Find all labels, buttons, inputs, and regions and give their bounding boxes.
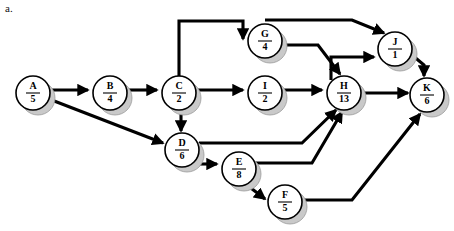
node-f[interactable]: F5	[268, 185, 307, 224]
node-activity-label: K	[423, 82, 431, 93]
node-k[interactable]: K6	[410, 78, 449, 117]
node-duration-label: 1	[393, 49, 398, 60]
node-g[interactable]: G4	[248, 24, 287, 63]
node-duration-label: 4	[108, 93, 113, 104]
node-duration-label: 2	[263, 93, 268, 104]
network-diagram: A5B4C2D6E8F5G4I2H13J1K6	[0, 0, 454, 231]
node-activity-label: I	[263, 80, 267, 91]
node-activity-label: C	[175, 80, 182, 91]
node-activity-label: A	[29, 80, 37, 91]
node-j[interactable]: J1	[378, 32, 417, 71]
node-duration-label: 8	[237, 169, 242, 180]
node-activity-label: D	[178, 137, 185, 148]
edge-c-to-j	[265, 20, 384, 33]
node-duration-label: 13	[339, 93, 349, 104]
node-activity-label: G	[261, 28, 269, 39]
node-b[interactable]: B4	[93, 76, 132, 115]
node-duration-label: 6	[425, 95, 430, 106]
node-activity-label: F	[282, 189, 288, 200]
node-h[interactable]: H13	[327, 76, 366, 115]
node-duration-label: 5	[283, 202, 288, 213]
node-duration-label: 4	[263, 41, 268, 52]
node-i[interactable]: I2	[248, 76, 287, 115]
node-duration-label: 6	[180, 150, 185, 161]
node-activity-label: B	[107, 80, 114, 91]
node-c[interactable]: C2	[162, 76, 201, 115]
node-activity-label: J	[393, 36, 398, 47]
edge-e-to-h	[256, 112, 342, 163]
node-a[interactable]: A5	[16, 76, 55, 115]
node-duration-label: 2	[177, 93, 182, 104]
nodes-layer: A5B4C2D6E8F5G4I2H13J1K6	[16, 24, 449, 224]
edge-c-to-g	[179, 21, 243, 77]
node-d[interactable]: D6	[165, 133, 204, 172]
diagram-page: a. A5B4C2D6E8F5G4I2H13J1K6	[0, 0, 454, 231]
node-activity-label: E	[236, 156, 243, 167]
node-duration-label: 5	[31, 93, 36, 104]
node-activity-label: H	[340, 80, 348, 91]
node-e[interactable]: E8	[222, 152, 261, 191]
